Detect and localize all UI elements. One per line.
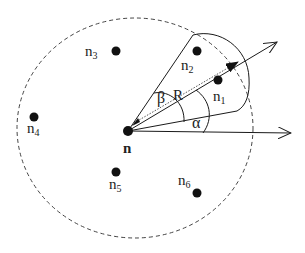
svg-text:n3: n3: [85, 43, 98, 61]
reference-axis-arrow: [128, 131, 291, 133]
svg-text:n1: n1: [213, 88, 226, 106]
beta-label: β: [157, 89, 165, 107]
svg-text:n6: n6: [178, 172, 191, 190]
neighbor-n5: n5: [109, 168, 122, 195]
neighbor-n3: n3: [85, 43, 121, 61]
center-node: [123, 126, 133, 136]
range-circle: [17, 18, 253, 238]
neighbor-n6: n6: [178, 172, 202, 198]
diagram-canvas: n n1 n2 n3 n4 n5 n6 β R α: [0, 0, 305, 253]
svg-text:n5: n5: [109, 176, 122, 194]
neighbor-n4: n4: [27, 113, 40, 139]
center-node-label: n: [123, 140, 132, 156]
alpha-label: α: [192, 114, 201, 131]
svg-text:n4: n4: [27, 120, 40, 138]
neighbor-n1: n1: [213, 76, 226, 107]
neighbor-n2: n2: [181, 47, 202, 76]
sector-left-edge: [128, 35, 193, 131]
radius-label: R: [173, 87, 183, 103]
svg-text:n2: n2: [181, 57, 194, 75]
